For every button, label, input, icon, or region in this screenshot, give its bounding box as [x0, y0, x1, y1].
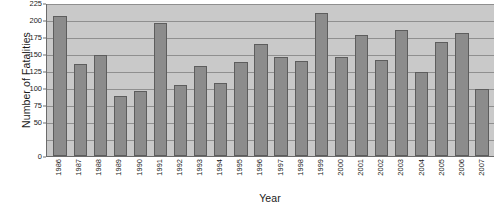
bar[interactable] [355, 35, 368, 156]
bar-slot [372, 4, 392, 156]
x-axis-tick-label: 2007 [478, 159, 486, 176]
x-tick-slot: 1995 [230, 158, 250, 190]
x-axis-tick-label: 1986 [55, 159, 63, 176]
x-tick-slot: 1994 [210, 158, 230, 190]
plot-area [46, 4, 494, 157]
x-tick-slot: 2001 [351, 158, 371, 190]
x-axis-tick-label: 1993 [196, 159, 204, 176]
bar[interactable] [415, 72, 428, 156]
x-tick-slot: 2007 [472, 158, 492, 190]
bar[interactable] [234, 62, 247, 156]
bar-slot [331, 4, 351, 156]
bar-slot [412, 4, 432, 156]
x-tick-slot: 1990 [130, 158, 150, 190]
x-axis-tick-label: 2004 [418, 159, 426, 176]
x-tick-slot: 1999 [311, 158, 331, 190]
x-axis-tick-label: 1996 [257, 159, 265, 176]
bar-slot [291, 4, 311, 156]
y-axis-tick-label: 125 [29, 68, 42, 76]
x-axis-tick-label: 2005 [438, 159, 446, 176]
x-tick-slot: 2003 [391, 158, 411, 190]
bar-slot [432, 4, 452, 156]
bar-slot [90, 4, 110, 156]
bar[interactable] [154, 23, 167, 156]
x-tick-slot: 2002 [371, 158, 391, 190]
x-tick-slot: 1993 [190, 158, 210, 190]
y-axis-tick-label: 75 [34, 102, 42, 110]
bar-slot [472, 4, 492, 156]
bar[interactable] [53, 16, 66, 156]
bar-slot [130, 4, 150, 156]
x-axis-tick-label: 1990 [136, 159, 144, 176]
x-tick-slot: 1987 [69, 158, 89, 190]
y-axis-tick-label: 100 [29, 85, 42, 93]
x-axis-tick-label: 2000 [337, 159, 345, 176]
x-tick-slot: 1988 [89, 158, 109, 190]
x-axis-tick-label: 1988 [96, 159, 104, 176]
bar[interactable] [254, 44, 267, 156]
bar-slot [211, 4, 231, 156]
x-tick-slot: 1996 [250, 158, 270, 190]
bar-slot [150, 4, 170, 156]
x-axis-title: Year [46, 192, 494, 204]
bar[interactable] [375, 60, 388, 156]
bar-slot [351, 4, 371, 156]
bar-slot [110, 4, 130, 156]
x-tick-slot: 1989 [109, 158, 129, 190]
bars-layer [47, 4, 494, 156]
x-axis-tick-label: 1999 [317, 159, 325, 176]
x-tick-slot: 2005 [432, 158, 452, 190]
bar-slot [271, 4, 291, 156]
x-axis-tick-label: 1989 [116, 159, 124, 176]
x-axis-tick-label: 2001 [357, 159, 365, 176]
bar-slot [70, 4, 90, 156]
x-tick-slot: 1997 [271, 158, 291, 190]
x-axis-tick-label: 2003 [398, 159, 406, 176]
bar-slot [311, 4, 331, 156]
bar[interactable] [475, 89, 488, 156]
y-axis-tick-label: 175 [29, 34, 42, 42]
y-axis-tick-label: 50 [34, 119, 42, 127]
bar[interactable] [455, 33, 468, 156]
bar-slot [392, 4, 412, 156]
bar[interactable] [295, 61, 308, 156]
y-axis-tick-labels: 05075100125150175200225 [22, 4, 46, 157]
bar[interactable] [335, 57, 348, 156]
x-axis-tick-label: 1987 [75, 159, 83, 176]
x-axis-tick-label: 1998 [297, 159, 305, 176]
y-axis-tick-label: 0 [38, 153, 42, 161]
bar[interactable] [315, 13, 328, 156]
bar[interactable] [94, 55, 107, 156]
x-tick-slot: 1992 [170, 158, 190, 190]
x-axis-tick-label: 1995 [237, 159, 245, 176]
x-tick-slot: 2004 [412, 158, 432, 190]
y-axis-tick-label: 200 [29, 17, 42, 25]
y-axis-tick-label: 225 [29, 0, 42, 8]
bar-slot [251, 4, 271, 156]
bar[interactable] [134, 91, 147, 156]
bar[interactable] [395, 30, 408, 156]
x-axis-tick-label: 2002 [378, 159, 386, 176]
x-axis-tick-label: 1991 [156, 159, 164, 176]
x-axis-tick-label: 1997 [277, 159, 285, 176]
x-tick-slot: 1991 [150, 158, 170, 190]
x-tick-slot: 2006 [452, 158, 472, 190]
x-axis-tick-labels: 1986198719881989199019911992199319941995… [46, 158, 494, 190]
bar[interactable] [174, 85, 187, 156]
bar[interactable] [435, 42, 448, 156]
bar-slot [231, 4, 251, 156]
bar-slot [452, 4, 472, 156]
bar[interactable] [214, 83, 227, 156]
bar-slot [191, 4, 211, 156]
x-tick-slot: 2000 [331, 158, 351, 190]
bar[interactable] [194, 66, 207, 156]
bar-slot [171, 4, 191, 156]
x-tick-slot: 1986 [49, 158, 69, 190]
bar[interactable] [74, 64, 87, 156]
y-axis-tick-label: 150 [29, 51, 42, 59]
bar[interactable] [114, 96, 127, 156]
x-tick-slot: 1998 [291, 158, 311, 190]
bar[interactable] [274, 57, 287, 156]
bar-chart: Number of Fatalities 0507510012515017520… [0, 0, 497, 214]
bar-slot [50, 4, 70, 156]
